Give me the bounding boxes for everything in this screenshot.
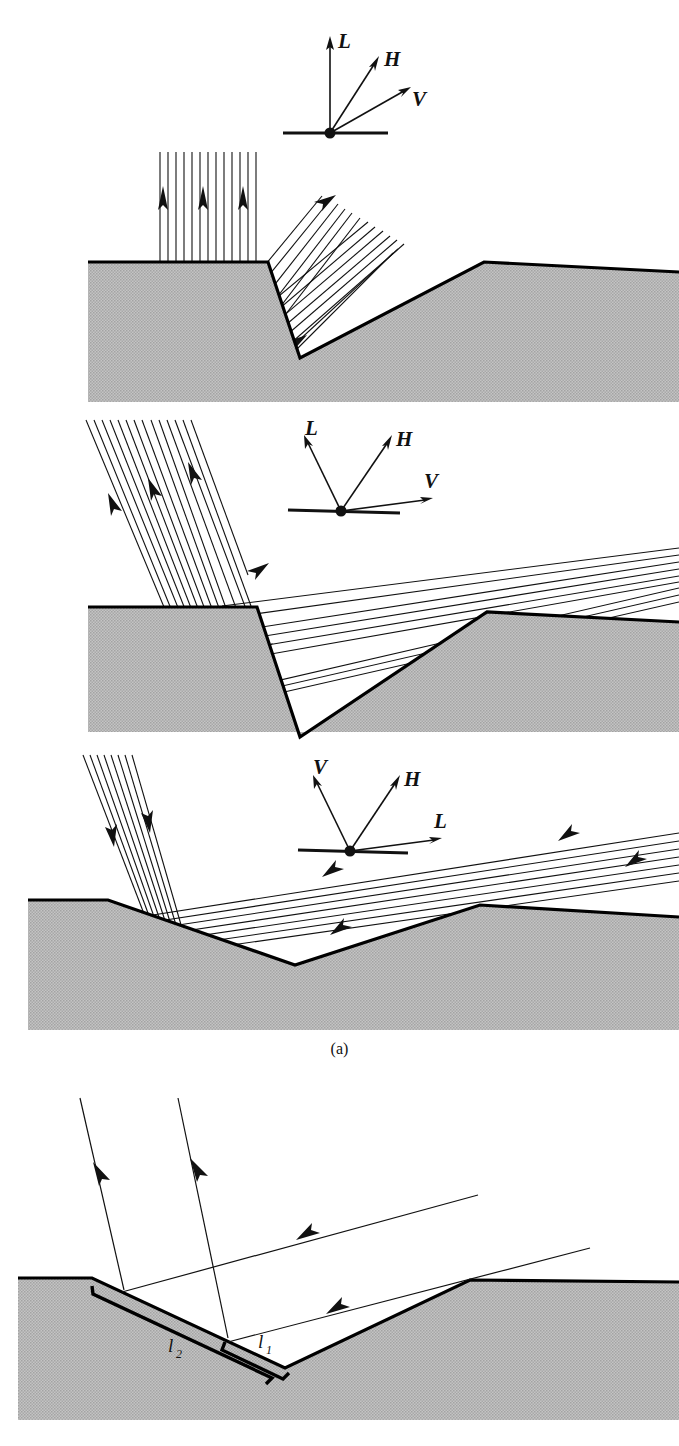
panel-1-no-masking: L H V [0, 0, 679, 420]
vector-V [341, 497, 433, 511]
length-sub-l1: 1 [266, 1343, 272, 1357]
panel-1-vector-diagram: L H V [283, 29, 428, 139]
vector-H [350, 775, 400, 851]
figure-page: L H V [0, 0, 679, 1446]
panel-2-vector-diagram: L H V [288, 416, 440, 517]
panel-2-surface [88, 607, 679, 737]
caption-a: (a) [0, 1040, 679, 1058]
panel-b-masked-length: l 2 l 1 [0, 1090, 679, 1430]
vector-label-H: H [395, 427, 413, 451]
vector-label-V: V [313, 755, 329, 779]
vector-V [313, 775, 350, 851]
length-label-l2: l [168, 1335, 173, 1356]
panel-b-incident-arrowheads [93, 1158, 208, 1186]
panel-1-surface [88, 262, 679, 402]
vector-label-L: L [433, 809, 447, 833]
origin-dot [336, 506, 347, 517]
vector-label-V: V [424, 469, 440, 493]
origin-dot [325, 128, 336, 139]
vector-label-L: L [304, 416, 318, 440]
panel-b-surface [18, 1278, 679, 1420]
vector-H [341, 435, 392, 511]
vector-H [330, 56, 379, 133]
vector-label-H: H [383, 47, 401, 71]
vector-V [330, 87, 411, 133]
vector-label-H: H [403, 767, 421, 791]
length-sub-l2: 2 [176, 1347, 182, 1361]
arrowhead-V [398, 87, 411, 97]
origin-dot [345, 846, 356, 857]
length-label-l1: l [258, 1331, 263, 1352]
panel-3-shadowing: V H L [0, 745, 679, 1035]
vector-L [326, 36, 334, 133]
panel-2-masking: L H V [0, 410, 679, 740]
vector-label-L: L [337, 29, 351, 53]
panel-3-vector-diagram: V H L [298, 755, 447, 857]
vector-L [304, 435, 341, 511]
vector-L [350, 837, 442, 851]
panel-3-surface [28, 900, 679, 1030]
panel-1-incident-arrowheads [158, 186, 248, 210]
vector-label-V: V [412, 87, 428, 111]
